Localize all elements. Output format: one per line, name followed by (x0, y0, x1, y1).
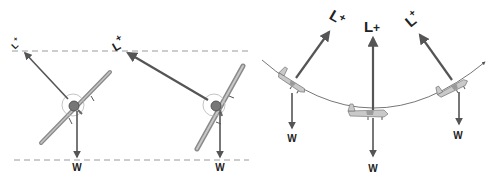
weight-label: W (215, 162, 225, 173)
airplane-banked-moderate (41, 72, 110, 143)
right-panel: L + W L + W L + (262, 6, 485, 174)
weight-label: W (368, 163, 378, 174)
svg-text:L: L (364, 18, 373, 35)
lift-label: L + (7, 35, 23, 51)
lift-arrow (420, 35, 452, 80)
weight-label: W (453, 130, 463, 141)
lift-arrow (128, 53, 208, 100)
lift-arrow (296, 32, 329, 78)
svg-text:+: + (373, 21, 380, 35)
left-panel: L + W L + W (7, 31, 249, 173)
lift-weight-diagram: L + W L + W (0, 0, 501, 184)
lift-arrow (25, 53, 68, 99)
lift-label: L + (327, 6, 349, 28)
lift-label: L + (400, 7, 423, 31)
weight-label: W (72, 162, 82, 173)
airplane-pitch-down-left (275, 66, 311, 97)
weight-label: W (287, 133, 297, 144)
lift-label: L + (364, 18, 380, 35)
